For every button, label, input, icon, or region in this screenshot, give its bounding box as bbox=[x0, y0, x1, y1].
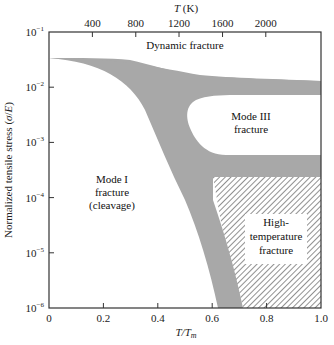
x-tick-label: 0.8 bbox=[260, 312, 274, 324]
fracture-mechanism-map: 00.20.40.60.81.040080012001600200010−110… bbox=[0, 0, 334, 345]
region-label-hightemp-line1: High- bbox=[263, 216, 289, 228]
top-axis-title: T (K) bbox=[174, 2, 198, 15]
region-label-hightemp-line2: temperature bbox=[250, 230, 303, 242]
region-label-hightemp-line3: fracture bbox=[259, 244, 293, 256]
x-tick-label: 0.2 bbox=[97, 312, 111, 324]
region-label-dynamic: Dynamic fracture bbox=[146, 39, 223, 51]
y-tick-label: 10−3 bbox=[26, 135, 45, 148]
region-label-mode1-line2: fracture bbox=[95, 186, 129, 198]
y-axis-title: Normalized tensile stress (σ/E) bbox=[2, 102, 15, 238]
top-tick-label: 2000 bbox=[255, 17, 278, 29]
x-tick-label: 0 bbox=[46, 312, 52, 324]
top-tick-label: 1200 bbox=[168, 17, 191, 29]
y-tick-label: 10−6 bbox=[26, 301, 45, 314]
x-tick-label: 1.0 bbox=[314, 312, 328, 324]
region-label-mode1-line1: Mode I bbox=[96, 173, 128, 185]
x-tick-label: 0.4 bbox=[151, 312, 165, 324]
top-tick-label: 400 bbox=[84, 17, 101, 29]
x-tick-label: 0.6 bbox=[205, 312, 219, 324]
y-tick-label: 10−5 bbox=[26, 246, 45, 259]
top-tick-label: 800 bbox=[128, 17, 145, 29]
x-axis-title: T/Tm bbox=[175, 326, 196, 340]
region-label-mode3-line1: Mode III bbox=[231, 110, 271, 122]
y-tick-label: 10−2 bbox=[26, 80, 45, 93]
region-label-mode3-line2: fracture bbox=[234, 123, 268, 135]
y-tick-label: 10−4 bbox=[26, 191, 45, 204]
y-tick-label: 10−1 bbox=[26, 25, 45, 38]
top-tick-label: 1600 bbox=[212, 17, 235, 29]
region-label-mode1-line3: (cleavage) bbox=[89, 199, 135, 212]
